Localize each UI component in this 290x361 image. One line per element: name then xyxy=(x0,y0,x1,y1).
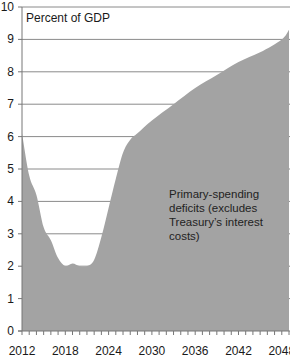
annotation-line-4: costs) xyxy=(169,230,200,242)
y-tick-label: 5 xyxy=(7,162,14,176)
y-tick-label: 9 xyxy=(7,32,14,46)
y-tick-label: 7 xyxy=(7,97,14,111)
x-tick-label: 2012 xyxy=(9,344,36,358)
x-tick-label: 2024 xyxy=(95,344,122,358)
x-tick-label: 2018 xyxy=(52,344,79,358)
x-tick-label: 2042 xyxy=(225,344,252,358)
unit-label: Percent of GDP xyxy=(26,11,110,25)
area-chart: 012345678910 201220182024203020362042204… xyxy=(0,0,290,361)
x-axis-labels: 2012201820242030203620422048 xyxy=(9,344,290,358)
annotation-line-1: Primary-spending xyxy=(169,188,259,200)
y-tick-label: 8 xyxy=(7,65,14,79)
y-tick-label: 10 xyxy=(1,0,15,14)
annotation-line-3: Treasury’s interest xyxy=(169,216,264,228)
y-tick-label: 1 xyxy=(7,292,14,306)
primary-deficit-area xyxy=(22,30,289,331)
y-tick-label: 0 xyxy=(7,324,14,338)
x-tick-label: 2030 xyxy=(139,344,166,358)
y-axis-labels: 012345678910 xyxy=(1,0,15,338)
annotation-line-2: deficits (excludes xyxy=(169,202,257,214)
y-tick-label: 2 xyxy=(7,259,14,273)
x-tick-label: 2036 xyxy=(182,344,209,358)
x-tick-label: 2048 xyxy=(268,344,290,358)
y-tick-label: 4 xyxy=(7,194,14,208)
y-tick-label: 3 xyxy=(7,227,14,241)
y-tick-label: 6 xyxy=(7,130,14,144)
